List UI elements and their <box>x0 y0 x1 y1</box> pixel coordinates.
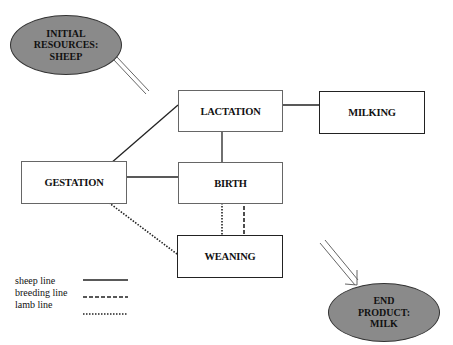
node-milking-label: MILKING <box>348 107 396 118</box>
legend: sheep line breeding line lamb line <box>15 275 67 311</box>
end-node-line2: PRODUCT: <box>358 307 410 319</box>
node-birth-label: BIRTH <box>214 178 246 189</box>
legend-label-sheep-line: sheep line <box>15 275 67 287</box>
end-node-line1: END <box>358 295 410 307</box>
end-node-line3: MILK <box>358 318 410 330</box>
legend-label-breeding-line: breeding line <box>15 287 67 299</box>
node-lactation-label: LACTATION <box>200 106 260 117</box>
start-node-line1: INITIAL <box>34 28 98 40</box>
node-gestation: GESTATION <box>21 161 127 204</box>
start-node-initial-resources: INITIAL RESOURCES: SHEEP <box>10 15 122 75</box>
node-gestation-label: GESTATION <box>44 177 103 188</box>
node-lactation: LACTATION <box>178 90 283 132</box>
node-weaning: WEANING <box>177 235 283 278</box>
end-arrow <box>320 240 358 285</box>
start-node-line2: RESOURCES: <box>34 39 98 51</box>
node-weaning-label: WEANING <box>204 251 255 262</box>
start-arrow <box>113 56 149 94</box>
node-birth: BIRTH <box>178 162 283 204</box>
node-milking: MILKING <box>319 91 425 134</box>
legend-label-lamb-line: lamb line <box>15 299 67 311</box>
end-node-milk: END PRODUCT: MILK <box>328 283 440 342</box>
edge-gestation-weaning-lamb <box>104 199 177 254</box>
start-node-line3: SHEEP <box>34 51 98 63</box>
